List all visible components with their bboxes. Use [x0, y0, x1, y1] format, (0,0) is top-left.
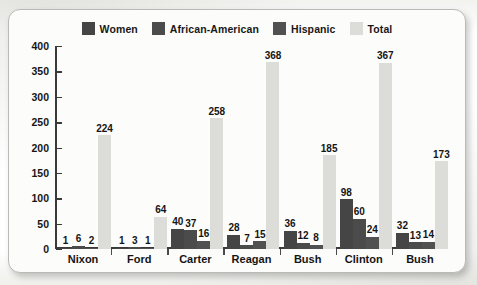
bar-value-label: 2: [89, 236, 95, 247]
x-axis-label: Nixon: [55, 253, 111, 265]
bar-slot: 1: [141, 46, 154, 249]
bar-slot: 173: [435, 46, 448, 249]
bar[interactable]: [59, 248, 72, 250]
bar-group: 986024367: [336, 46, 392, 249]
bar-slot: 367: [379, 46, 392, 249]
bar-value-label: 64: [155, 205, 166, 216]
plot-area: 050100150200250300350400 162224131644037…: [55, 46, 448, 249]
bar[interactable]: [310, 245, 323, 249]
bar[interactable]: [409, 242, 422, 249]
y-tick-label: 400: [31, 40, 49, 52]
chart-card: Women African-American Hispanic Total 05…: [8, 9, 466, 273]
bar[interactable]: [323, 155, 336, 249]
bar-group: 321314173: [392, 46, 448, 249]
bar-slot: 28: [227, 46, 240, 249]
bar-group-bars: 986024367: [336, 46, 392, 249]
bar-group-bars: 36128185: [280, 46, 336, 249]
bar-value-label: 1: [63, 236, 69, 247]
legend-swatch-total: [350, 22, 363, 35]
y-tick-label: 200: [31, 142, 49, 154]
bar-value-label: 3: [132, 236, 138, 247]
legend-item-hispanic: Hispanic: [273, 22, 336, 35]
x-axis-label: Ford: [111, 253, 167, 265]
bar[interactable]: [284, 231, 297, 249]
chart-legend: Women African-American Hispanic Total: [9, 22, 465, 35]
bar-slot: 7: [240, 46, 253, 249]
legend-swatch-hispanic: [273, 22, 286, 35]
bar-value-label: 6: [76, 234, 82, 245]
bar-slot: 36: [284, 46, 297, 249]
bar-value-label: 24: [367, 225, 378, 236]
bar[interactable]: [379, 63, 392, 249]
bar[interactable]: [227, 235, 240, 249]
bar-slot: 32: [396, 46, 409, 249]
legend-item-total: Total: [350, 22, 393, 35]
bar-group: 403716258: [167, 46, 223, 249]
bar-value-label: 13: [410, 231, 421, 242]
legend-label-women: Women: [100, 23, 138, 35]
bar[interactable]: [396, 233, 409, 249]
y-tick-label: 50: [37, 218, 49, 230]
legend-swatch-women: [82, 22, 95, 35]
legend-label-african-american: African-American: [170, 23, 259, 35]
bar[interactable]: [154, 217, 167, 249]
bar[interactable]: [184, 230, 197, 249]
bar-slot: 2: [85, 46, 98, 249]
bar-slot: 1: [59, 46, 72, 249]
bar[interactable]: [115, 248, 128, 250]
bar[interactable]: [85, 248, 98, 250]
bar-value-label: 32: [397, 221, 408, 232]
y-tick-label: 250: [31, 116, 49, 128]
y-tick-label: 0: [43, 243, 49, 255]
bar-value-label: 16: [198, 229, 209, 240]
bar-groups: 1622241316440371625828715368361281859860…: [55, 46, 448, 249]
bar-group-bars: 28715368: [223, 46, 279, 249]
bar[interactable]: [72, 246, 85, 249]
bar-group: 13164: [111, 46, 167, 249]
bar[interactable]: [340, 199, 353, 249]
legend-item-women: Women: [82, 22, 138, 35]
bar[interactable]: [197, 241, 210, 249]
bar[interactable]: [98, 135, 111, 249]
bar-slot: 185: [323, 46, 336, 249]
bar-value-label: 36: [285, 219, 296, 230]
bar-group-bars: 13164: [111, 46, 167, 249]
bar-group-bars: 321314173: [392, 46, 448, 249]
y-tick-label: 100: [31, 192, 49, 204]
x-axis-label: Bush: [280, 253, 336, 265]
bar-slot: 60: [353, 46, 366, 249]
bar[interactable]: [210, 118, 223, 249]
bar-group-bars: 162224: [55, 46, 111, 249]
bar[interactable]: [422, 242, 435, 249]
bar[interactable]: [253, 241, 266, 249]
bar[interactable]: [171, 229, 184, 249]
x-axis-label: Bush: [392, 253, 448, 265]
bar-value-label: 7: [244, 234, 250, 245]
bar-slot: 16: [197, 46, 210, 249]
x-axis-label: Clinton: [336, 253, 392, 265]
bar[interactable]: [240, 245, 253, 249]
bar-value-label: 40: [172, 217, 183, 228]
bar[interactable]: [128, 247, 141, 249]
bar[interactable]: [141, 248, 154, 250]
legend-label-total: Total: [368, 23, 393, 35]
bar-slot: 368: [266, 46, 279, 249]
bar-value-label: 1: [119, 236, 125, 247]
bar-slot: 224: [98, 46, 111, 249]
chart-page: Women African-American Hispanic Total 05…: [0, 0, 477, 285]
bar-value-label: 12: [298, 231, 309, 242]
bar[interactable]: [366, 237, 379, 249]
bar[interactable]: [266, 62, 279, 249]
y-tick-label: 350: [31, 65, 49, 77]
bar[interactable]: [297, 243, 310, 249]
bar-slot: 6: [72, 46, 85, 249]
bar-slot: 37: [184, 46, 197, 249]
bar-slot: 258: [210, 46, 223, 249]
bar-slot: 3: [128, 46, 141, 249]
bar-group: 162224: [55, 46, 111, 249]
bar[interactable]: [435, 161, 448, 249]
x-axis-label: Carter: [167, 253, 223, 265]
bar-value-label: 28: [228, 223, 239, 234]
bar-slot: 14: [422, 46, 435, 249]
bar[interactable]: [353, 219, 366, 249]
